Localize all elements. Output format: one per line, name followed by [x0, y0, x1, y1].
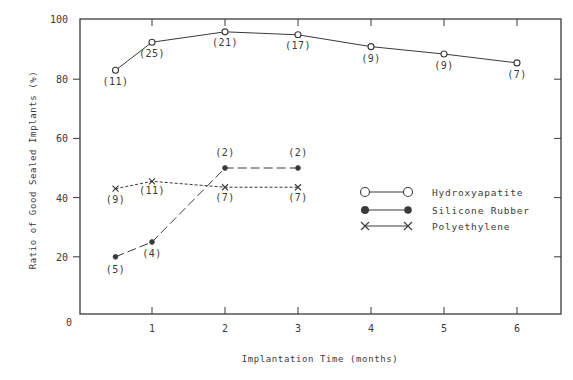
legend-item-silicone-rubber: Silicone Rubber: [361, 205, 530, 216]
x-axis-title: Implantation Time (months): [242, 354, 398, 364]
x-tick-label: 5: [441, 323, 447, 334]
filled-circle-marker-icon: [223, 166, 228, 171]
legend-label: Silicone Rubber: [432, 205, 530, 216]
sample-count-label: (9): [106, 194, 126, 205]
open-circle-marker-icon: [514, 60, 520, 66]
open-circle-marker-icon: [368, 44, 374, 50]
series-line: [116, 168, 299, 257]
filled-circle-marker-icon: [296, 166, 301, 171]
plot-frame: [80, 19, 561, 314]
sample-count-label: (25): [139, 48, 165, 59]
x-tick-label: 4: [368, 323, 374, 334]
chart-canvas: 20406080100 123456 (11)(25)(21)(17)(9)(9…: [0, 0, 573, 380]
x-tick-label: 2: [222, 323, 228, 334]
sample-count-label: (5): [106, 264, 126, 275]
series-hydroxyapatite: (11)(25)(21)(17)(9)(9)(7): [102, 29, 526, 87]
open-circle-marker-icon: [404, 188, 413, 197]
series-polyethylene: (9)(11)(7)(7): [106, 178, 308, 204]
sample-count-label: (7): [507, 69, 527, 80]
filled-circle-marker-icon: [113, 254, 118, 259]
y-tick-label: 100: [50, 14, 68, 25]
plot-border: [80, 19, 561, 314]
y-tick-label: 20: [56, 252, 68, 263]
filled-circle-marker-icon: [404, 206, 412, 214]
legend-label: Polyethylene: [432, 221, 510, 232]
x-axis: 123456: [149, 19, 520, 334]
sample-count-label: (7): [288, 192, 308, 203]
y-tick-label: 60: [56, 133, 68, 144]
y-tick-label: 80: [56, 74, 68, 85]
open-circle-marker-icon: [361, 188, 370, 197]
sample-count-label: (2): [288, 147, 308, 158]
x-tick-label: 1: [149, 323, 155, 334]
y-axis-title: Ratio of Good Sealed Implants (%): [28, 71, 38, 270]
sample-count-label: (21): [212, 37, 238, 48]
open-circle-marker-icon: [113, 67, 119, 73]
series-line: [116, 32, 518, 70]
x-tick-label: 3: [295, 323, 301, 334]
sample-count-label: (11): [102, 76, 128, 87]
sample-count-label: (17): [285, 40, 311, 51]
legend-item-hydroxyapatite: Hydroxyapatite: [361, 187, 524, 198]
line-chart: 20406080100 123456 (11)(25)(21)(17)(9)(9…: [0, 0, 573, 380]
sample-count-label: (4): [142, 248, 162, 259]
filled-circle-marker-icon: [150, 240, 155, 245]
legend-label: Hydroxyapatite: [432, 187, 523, 198]
series-silicone-rubber: (5)(4)(2)(2): [106, 147, 308, 275]
sample-count-label: (7): [215, 192, 235, 203]
open-circle-marker-icon: [149, 39, 155, 45]
open-circle-marker-icon: [295, 32, 301, 38]
legend-item-polyethylene: Polyethylene: [361, 221, 510, 232]
sample-count-label: (2): [215, 147, 235, 158]
series-group: (11)(25)(21)(17)(9)(9)(7)(5)(4)(2)(2)(9)…: [102, 29, 526, 275]
open-circle-marker-icon: [441, 51, 447, 57]
sample-count-label: (11): [139, 185, 165, 196]
sample-count-label: (9): [434, 60, 454, 71]
sample-count-label: (9): [361, 53, 381, 64]
y-tick-label: 40: [56, 193, 68, 204]
x-tick-label: 6: [514, 323, 520, 334]
legend: HydroxyapatiteSilicone RubberPolyethylen…: [361, 187, 530, 232]
origin-label: 0: [66, 317, 72, 328]
filled-circle-marker-icon: [361, 206, 369, 214]
open-circle-marker-icon: [222, 29, 228, 35]
